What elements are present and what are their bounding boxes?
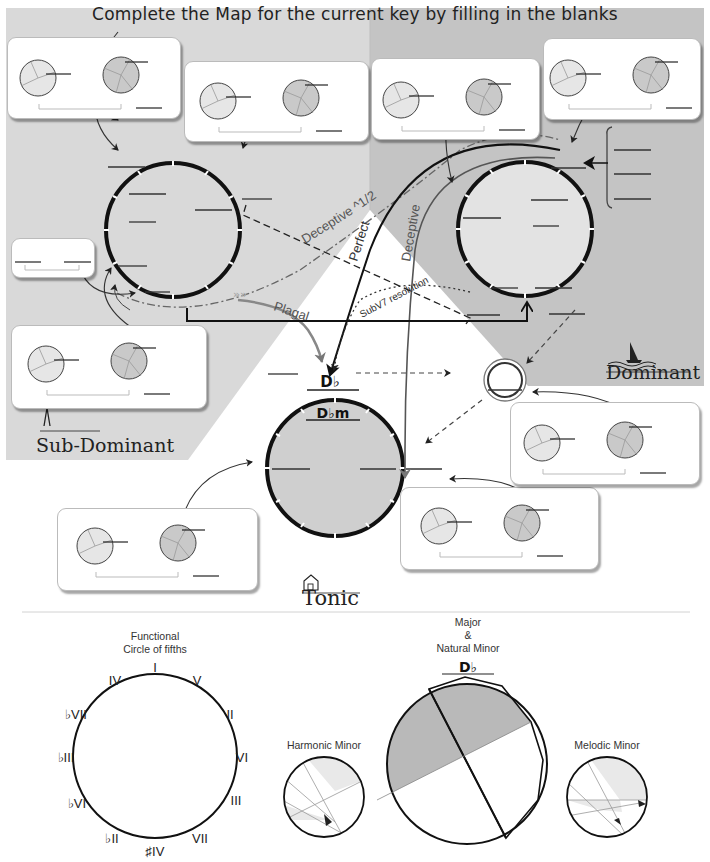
major-natural-minor-diagram: Major & Natural Minor D♭ — [377, 616, 547, 844]
roman-sharp-IV: ♯IV — [146, 844, 165, 859]
tonic-major-chord: D♭ — [320, 373, 340, 391]
page-title: Complete the Map for the current key by … — [0, 4, 710, 24]
tonic-minor-chord: D♭m — [317, 405, 350, 421]
roman-III: III — [231, 793, 242, 808]
major-title: Major — [455, 616, 482, 628]
chord-card-sd-bottom — [11, 325, 207, 409]
roman-flat-VI: ♭VI — [68, 796, 86, 811]
roman-flat-II: ♭II — [105, 831, 118, 846]
dominant-label: Dominant — [606, 361, 700, 383]
chord-card-sd-top-mid — [184, 61, 369, 142]
harmony-map-worksheet: D♭ D♭m Deceptive ^1/2 Perfect Deceptive — [0, 0, 710, 862]
roman-VI: VI — [236, 750, 248, 765]
tonic-label: Tonic — [302, 586, 359, 610]
harmonic-minor-diagram: Harmonic Minor — [284, 739, 364, 840]
ampersand: & — [464, 629, 471, 641]
plagal-chevrons: »» — [233, 288, 247, 301]
natural-minor-title: Natural Minor — [436, 642, 500, 654]
sub-dominant-label: Sub-Dominant — [36, 434, 174, 456]
roman-IV: IV — [109, 673, 122, 688]
functional-title-2: Circle of fifths — [123, 643, 187, 655]
chord-card-tonic-left — [57, 508, 258, 591]
roman-VII: VII — [192, 831, 208, 846]
key-label: D♭ — [459, 659, 477, 675]
functional-title-1: Functional — [131, 630, 179, 642]
chord-card-tonic-right — [400, 487, 599, 570]
secondary-dominant-circle — [484, 359, 526, 401]
functional-circle-of-fifths: Functional Circle of fifths I V II VI II… — [58, 630, 249, 859]
chord-card-dom-right — [510, 402, 700, 485]
harmonic-minor-title: Harmonic Minor — [287, 739, 362, 751]
roman-II: II — [226, 707, 233, 722]
roman-flat-VII: ♭VII — [65, 707, 87, 722]
roman-flat-III: ♭III — [58, 750, 75, 765]
chord-card-dom-top-mid — [371, 58, 540, 140]
melodic-minor-diagram: Melodic Minor — [567, 739, 647, 837]
chord-card-dom-top-right — [543, 38, 701, 120]
chord-card-sd-small — [11, 238, 95, 278]
roman-I: I — [153, 660, 157, 675]
chord-card-sd-top-left — [7, 37, 181, 119]
melodic-minor-title: Melodic Minor — [574, 739, 640, 751]
subv7-resolution-label: SubV7 resolution — [358, 274, 430, 319]
roman-V: V — [193, 673, 202, 688]
